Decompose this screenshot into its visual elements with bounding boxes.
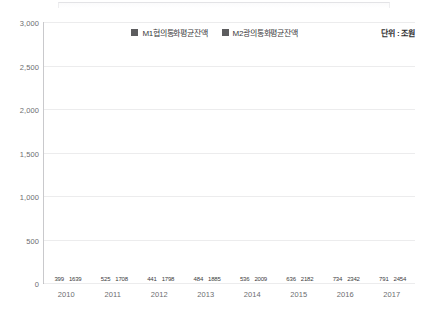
bar-value-label: 441 (147, 276, 156, 282)
bar-group: 5362009 (230, 22, 276, 283)
bar-value-label: 399 (54, 276, 63, 282)
y-axis-tick-label: 1,500 (20, 149, 39, 158)
bar-value-label: 2342 (347, 276, 360, 282)
x-axis-tick-label: 2016 (322, 286, 369, 302)
x-axis: 20102011201220132014201520162017 (43, 286, 415, 302)
x-axis-tick-label: 2013 (183, 286, 230, 302)
bar-value-label: 1798 (162, 276, 175, 282)
gridline: 0 (44, 283, 415, 284)
bar-value-label: 734 (333, 276, 342, 282)
chart-plot-area: 3,0002,5002,0001,5001,0005000 3991639525… (43, 22, 415, 284)
y-axis-tick-label: 2,000 (20, 106, 39, 115)
x-axis-tick-label: 2017 (369, 286, 416, 302)
bar-group: 7342342 (322, 22, 368, 283)
bar-value-label: 1885 (208, 276, 221, 282)
bar-group: 4411798 (137, 22, 183, 283)
bar-group: 6362182 (276, 22, 322, 283)
bar-group: 3991639 (44, 22, 90, 283)
x-axis-tick-label: 2014 (229, 286, 276, 302)
bar-value-label: 2182 (301, 276, 314, 282)
bar-groups: 3991639525170844117984841885536200963621… (44, 22, 415, 283)
bar-group: 4841885 (183, 22, 229, 283)
y-axis-tick-label: 3,000 (20, 19, 39, 28)
x-axis-tick-label: 2011 (90, 286, 137, 302)
bar-value-label: 2009 (254, 276, 267, 282)
x-axis-tick-label: 2010 (43, 286, 90, 302)
bar-value-label: 636 (286, 276, 295, 282)
bar-value-label: 1708 (115, 276, 128, 282)
bar-value-label: 791 (379, 276, 388, 282)
bar-value-label: 536 (240, 276, 249, 282)
bar-value-label: 2454 (394, 276, 407, 282)
bar-value-label: 1639 (69, 276, 82, 282)
x-axis-tick-label: 2015 (276, 286, 323, 302)
bar-group: 7912454 (369, 22, 415, 283)
bar-value-label: 525 (101, 276, 110, 282)
bar-group: 5251708 (90, 22, 136, 283)
y-axis-tick-label: 1,000 (20, 193, 39, 202)
y-axis-tick-label: 500 (26, 236, 39, 245)
x-axis-tick-label: 2012 (136, 286, 183, 302)
scan-edge-artifact (58, 2, 390, 8)
y-axis-tick-label: 0 (35, 280, 39, 289)
bar-value-label: 484 (194, 276, 203, 282)
y-axis-tick-label: 2,500 (20, 62, 39, 71)
